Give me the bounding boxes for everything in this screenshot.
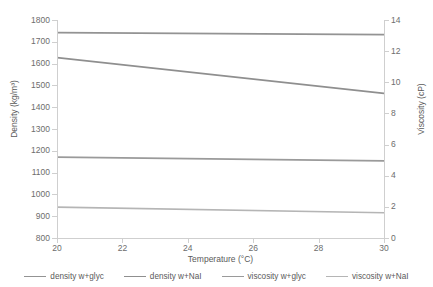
y-axis-right-tick-label: 8 (391, 108, 421, 118)
y-axis-left-line (57, 20, 58, 238)
y-axis-right-tick-label: 12 (391, 46, 421, 56)
x-axis-tick-label: 24 (173, 243, 203, 253)
x-axis-tick-mark (384, 238, 385, 243)
y-axis-left-tick-label: 1400 (20, 102, 50, 112)
y-axis-left-tick-label: 1800 (20, 15, 50, 25)
series-line (57, 58, 384, 94)
y-axis-right-line (384, 20, 385, 238)
legend-item[interactable]: density w+NaI (124, 272, 202, 281)
y-axis-left-tick-label: 800 (20, 233, 50, 243)
y-axis-right-tick-label: 0 (391, 233, 421, 243)
legend-label: viscosity w+NaI (352, 272, 409, 281)
x-axis-tick-label: 26 (238, 243, 268, 253)
y-axis-right-tick-label: 4 (391, 170, 421, 180)
y-axis-left-tick-label: 1500 (20, 80, 50, 90)
legend-label: density w+NaI (150, 272, 202, 281)
y-axis-left-tick-label: 1200 (20, 145, 50, 155)
plot-area (57, 20, 384, 238)
legend-item[interactable]: viscosity w+NaI (326, 272, 409, 281)
y-axis-left-tick-label: 1600 (20, 58, 50, 68)
x-axis-tick-label: 22 (107, 243, 137, 253)
y-axis-left-title: Density (kg/m³) (9, 43, 19, 175)
y-axis-right-tick-label: 2 (391, 201, 421, 211)
series-line (57, 33, 384, 35)
chart-legend: density w+glycdensity w+NaIviscosity w+g… (0, 268, 433, 284)
y-axis-left-tick-label: 1000 (20, 189, 50, 199)
series-line (57, 157, 384, 161)
y-axis-left-tick-label: 1300 (20, 124, 50, 134)
x-axis-tick-label: 20 (42, 243, 72, 253)
y-axis-left-tick-label: 1100 (20, 167, 50, 177)
x-axis-title: Temperature (°C) (57, 254, 384, 264)
legend-color-swatch (326, 276, 348, 277)
legend-color-swatch (124, 276, 146, 277)
y-axis-left-tick-label: 900 (20, 211, 50, 221)
plot-lines (57, 20, 384, 238)
y-axis-right-tick-label: 14 (391, 15, 421, 25)
series-line (57, 207, 384, 213)
chart-container: Density (kg/m³) Viscosity (cP) Temperatu… (0, 0, 433, 287)
legend-color-swatch (222, 276, 244, 277)
legend-label: density w+glyc (50, 272, 103, 281)
legend-item[interactable]: density w+glyc (24, 272, 103, 281)
y-axis-right-tick-label: 10 (391, 77, 421, 87)
x-axis-line (57, 238, 384, 239)
legend-item[interactable]: viscosity w+glyc (222, 272, 306, 281)
x-axis-tick-label: 28 (304, 243, 334, 253)
y-axis-left-tick-label: 1700 (20, 36, 50, 46)
legend-label: viscosity w+glyc (248, 272, 306, 281)
legend-color-swatch (24, 276, 46, 277)
x-axis-tick-label: 30 (369, 243, 399, 253)
y-axis-right-tick-label: 6 (391, 139, 421, 149)
